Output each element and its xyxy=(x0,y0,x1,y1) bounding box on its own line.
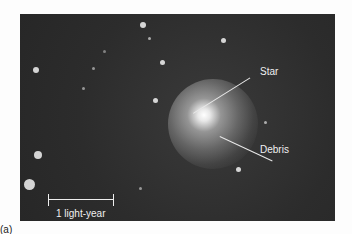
star-point xyxy=(34,151,42,159)
scale-bar xyxy=(48,194,114,206)
star-label: Star xyxy=(260,66,278,77)
star-point xyxy=(140,22,146,28)
star-point xyxy=(139,187,142,190)
star-point xyxy=(153,98,158,103)
star-point xyxy=(33,67,39,73)
star-point xyxy=(221,38,226,43)
star-point xyxy=(82,87,85,90)
figure-caption: (a) xyxy=(0,224,12,234)
nebula-photo: Star Debris 1 light-year xyxy=(20,14,335,221)
nebula-debris-cloud xyxy=(168,79,258,169)
star-point xyxy=(148,37,151,40)
star-point xyxy=(103,50,106,53)
debris-label: Debris xyxy=(260,144,289,155)
star-point xyxy=(236,167,241,172)
scale-label: 1 light-year xyxy=(56,208,105,219)
star-point xyxy=(160,60,165,65)
star-point xyxy=(92,67,95,70)
star-point xyxy=(264,121,267,124)
star-point xyxy=(24,179,35,190)
